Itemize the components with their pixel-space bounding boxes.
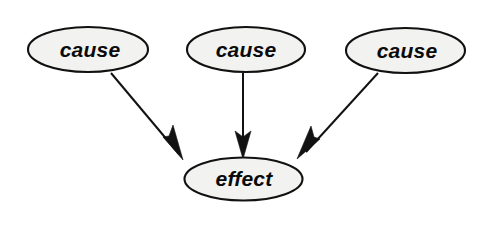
node-effect-label: effect bbox=[216, 167, 274, 190]
edge-cause-middle-to-effect bbox=[235, 73, 251, 159]
edge-cause-right-to-effect bbox=[297, 73, 378, 159]
edge-group bbox=[111, 73, 378, 160]
node-cause-right-label: cause bbox=[377, 39, 438, 62]
arrowhead-left-icon bbox=[163, 125, 183, 160]
arrowhead-right-icon bbox=[297, 126, 320, 159]
node-cause-right[interactable]: cause bbox=[346, 28, 465, 73]
node-cause-left[interactable]: cause bbox=[28, 27, 148, 72]
node-effect[interactable]: effect bbox=[185, 158, 303, 201]
node-cause-left-label: cause bbox=[60, 38, 121, 61]
node-group: cause cause cause effect bbox=[28, 27, 465, 201]
node-cause-middle[interactable]: cause bbox=[187, 27, 305, 72]
edge-cause-left-to-effect bbox=[111, 73, 183, 160]
cause-effect-diagram: cause cause cause effect bbox=[0, 0, 482, 230]
node-cause-middle-label: cause bbox=[216, 38, 277, 61]
diagram-canvas: cause cause cause effect bbox=[0, 0, 482, 230]
